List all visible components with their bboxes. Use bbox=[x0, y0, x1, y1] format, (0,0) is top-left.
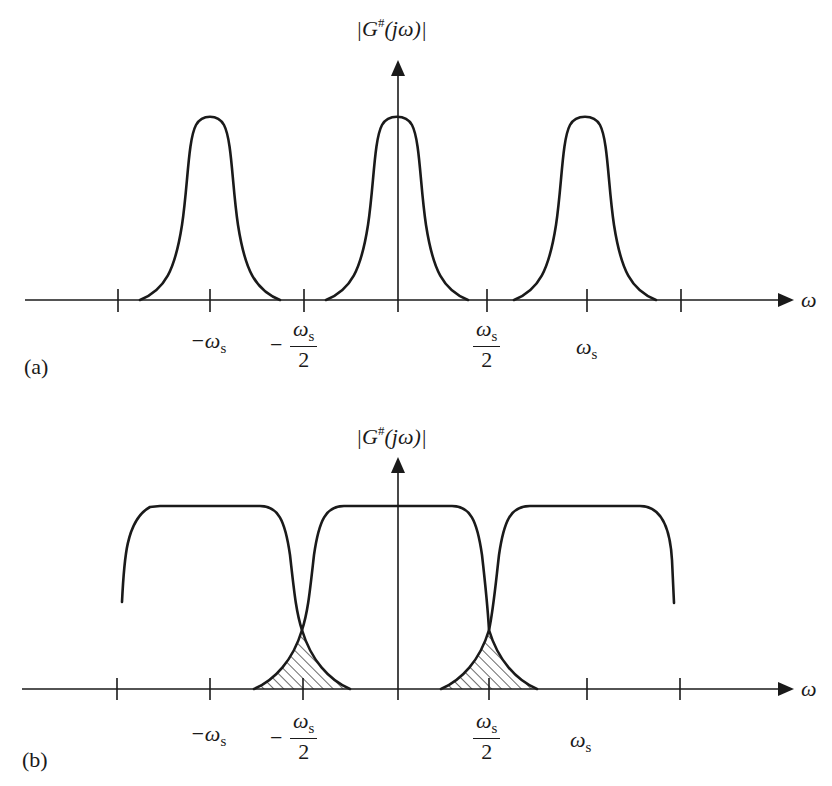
x-axis-arrow-icon bbox=[778, 293, 794, 307]
tick-label-ws-b: ωs bbox=[570, 729, 591, 755]
spectrum-a-right bbox=[514, 117, 656, 300]
panel-label-b: (b) bbox=[22, 749, 48, 771]
panel-label-a: (a) bbox=[24, 356, 48, 378]
tick-label-half-ws-b: ωs 2 bbox=[473, 710, 500, 763]
y-axis-label-a: |G#(jω)| bbox=[356, 16, 427, 40]
spectrum-a-left bbox=[140, 117, 280, 300]
x-axis-label-b: ω bbox=[801, 678, 817, 700]
x-axis-arrow-icon bbox=[778, 682, 794, 696]
tick-label-half-ws-a: ωs 2 bbox=[473, 318, 500, 371]
x-axis-label-a: ω bbox=[801, 289, 817, 311]
spectrum-b-left bbox=[122, 506, 350, 689]
panel-a bbox=[25, 60, 794, 312]
y-axis-arrow-icon bbox=[391, 60, 405, 76]
tick-label-neg-ws-a: −ωs bbox=[190, 330, 226, 356]
tick-label-neg-ws-b: −ωs bbox=[190, 723, 226, 749]
spectrum-a-center bbox=[326, 117, 468, 300]
aliasing-figure bbox=[0, 0, 832, 786]
tick-label-neg-half-ws-b: ωs 2 bbox=[290, 710, 317, 763]
y-axis-arrow-icon bbox=[391, 457, 405, 473]
y-axis-label-b: |G#(jω)| bbox=[356, 424, 427, 448]
tick-label-ws-a: ωs bbox=[576, 336, 597, 362]
tick-label-neg-half-ws-a: ωs 2 bbox=[290, 318, 317, 371]
panel-b bbox=[22, 457, 794, 700]
tick-label-neg-half-ws-sign-a: − bbox=[270, 332, 282, 358]
tick-label-neg-half-ws-sign-b: − bbox=[270, 725, 282, 751]
